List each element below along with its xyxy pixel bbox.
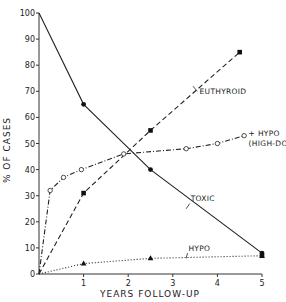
series-hypo-high-dose (39, 133, 246, 274)
series-line (39, 13, 262, 253)
x-tick-label: 3 (170, 279, 175, 288)
leader-line (186, 253, 187, 258)
marker-triangle (81, 261, 87, 266)
y-tick-label: 40 (25, 166, 35, 175)
marker-open-circle (61, 175, 65, 179)
y-tick-label: 30 (25, 192, 35, 201)
series-group (39, 13, 265, 274)
marker-square (148, 128, 153, 133)
y-tick-label: 0 (30, 270, 35, 279)
y-tick-label: 50 (25, 140, 35, 149)
marker-square (81, 191, 86, 196)
marker-circle (81, 102, 86, 107)
marker-open-circle (48, 188, 52, 192)
series-toxic (39, 13, 264, 256)
line-chart: 010203040506070809010012345 EUTHYROID+ H… (0, 0, 286, 302)
marker-open-circle (242, 133, 246, 137)
marker-open-circle (215, 141, 219, 145)
x-axis-title: YEARS FOLLOW-UP (99, 289, 200, 299)
series-line (39, 52, 240, 274)
annotation-label: + HYPO (249, 129, 280, 138)
series-euthyroid (39, 50, 242, 274)
y-axis-title: % OF CASES (2, 117, 12, 183)
marker-open-circle (122, 152, 126, 156)
y-tick-label: 20 (25, 218, 35, 227)
x-tick-label: 1 (81, 279, 86, 288)
x-tick-label: 4 (215, 279, 220, 288)
y-tick-label: 70 (25, 87, 35, 96)
x-tick-label: 5 (259, 279, 264, 288)
axes: 010203040506070809010012345 (20, 9, 265, 288)
y-tick-label: 60 (25, 113, 35, 122)
y-tick-label: 90 (25, 35, 35, 44)
annotation-label: EUTHYROID (200, 87, 247, 96)
leader-line (193, 86, 197, 91)
marker-circle (148, 167, 153, 172)
annotation-label: (HIGH-DOSE) (249, 139, 286, 148)
annotations: EUTHYROID+ HYPO(HIGH-DOSE)TOXICHYPO (186, 86, 286, 258)
y-tick-label: 10 (25, 244, 35, 253)
y-tick-label: 80 (25, 61, 35, 70)
annotation-label: HYPO (188, 244, 210, 253)
y-tick-label: 100 (20, 9, 35, 18)
marker-square (237, 50, 242, 55)
series-hypo (39, 253, 265, 274)
series-line (39, 136, 244, 274)
marker-square (260, 253, 265, 258)
marker-open-circle (79, 167, 83, 171)
leader-line (186, 204, 190, 209)
marker-open-circle (184, 147, 188, 151)
annotation-label: TOXIC (190, 194, 215, 203)
x-tick-label: 2 (126, 279, 131, 288)
